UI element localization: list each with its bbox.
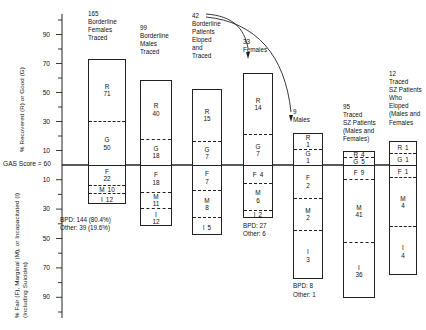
segment-value: 2 <box>306 214 310 221</box>
segment-eloped-males-r: R1 <box>294 134 322 150</box>
segment-eloped-females-g: G7 <box>244 135 272 166</box>
segment-traced-sz-patients-f: F9 <box>344 166 374 180</box>
segment-letter: I <box>307 248 309 255</box>
segment-value: 1 <box>405 168 409 175</box>
segment-value: 50 <box>103 144 110 151</box>
segment-value: 12 <box>152 218 159 225</box>
y-tick-lower-2: 50 <box>34 235 50 242</box>
segment-letter: F <box>154 171 158 178</box>
segment-traced-sz-eloped-i: I4 <box>390 227 416 276</box>
bar-eloped-females: R14G7F4M6I2 <box>243 73 273 219</box>
segment-value: 8 <box>205 204 209 211</box>
segment-borderline-males-traced-i: I12 <box>141 209 171 227</box>
y-tick-upper-0: 90 <box>34 31 50 38</box>
segment-letter: M <box>400 195 405 202</box>
segment-traced-sz-eloped-r: R1 <box>390 142 416 154</box>
segment-value: 6 <box>256 197 260 204</box>
column-header-borderline-males-traced: 99 Borderline Males Traced <box>140 24 198 56</box>
segment-letter: F <box>105 168 109 175</box>
segment-value: 4 <box>401 252 405 259</box>
segment-value: 4 <box>260 171 264 178</box>
segment-letter: F <box>253 171 257 178</box>
segment-value: 18 <box>152 179 159 186</box>
segment-eloped-females-f: F4 <box>244 166 272 184</box>
y-axis-ticks <box>56 20 62 312</box>
segment-letter: G <box>105 136 110 143</box>
y-tick-upper-2: 50 <box>34 89 50 96</box>
bar-eloped-males: R1G1F2M2I3 <box>293 133 323 279</box>
segment-value: 11 <box>153 200 160 207</box>
segment-letter: M <box>99 186 104 193</box>
y-tick-lower-3: 70 <box>34 264 50 271</box>
segment-borderline-males-traced-f: F18 <box>141 166 171 193</box>
segment-borderline-eloped-traced-i: I5 <box>193 218 221 235</box>
segment-eloped-males-f: F2 <box>294 166 322 199</box>
segment-borderline-eloped-traced-f: F7 <box>193 166 221 191</box>
segment-eloped-females-r: R14 <box>244 74 272 135</box>
segment-letter: M <box>153 193 158 200</box>
lower-axis-title: % Fair (F), Marginal (M), or Incapacitat… <box>13 193 29 318</box>
segment-borderline-eloped-traced-r: R15 <box>193 90 221 142</box>
segment-traced-sz-patients-g: G5 <box>344 158 374 166</box>
segment-letter: F <box>205 170 209 177</box>
segment-value: 2 <box>259 211 263 218</box>
segment-value: 71 <box>103 90 110 97</box>
bar-traced-sz-patients: R4G5F9M41I36 <box>343 151 375 298</box>
segment-letter: G <box>205 146 210 153</box>
segment-letter: R <box>306 134 311 141</box>
segment-value: 1 <box>405 144 409 151</box>
segment-value: 9 <box>361 169 365 176</box>
segment-value: 36 <box>355 271 362 278</box>
segment-value: 40 <box>152 110 159 117</box>
segment-value: 5 <box>361 158 365 165</box>
segment-letter: I <box>101 196 103 203</box>
segment-letter: M <box>255 189 260 196</box>
gas-score-label: GAS Score = 60 <box>3 160 51 167</box>
y-tick-upper-3: 30 <box>34 118 50 125</box>
y-tick-upper-1: 70 <box>34 60 50 67</box>
segment-letter: R <box>105 83 110 90</box>
upper-axis-title: % Recovered (R) or Good (G) <box>18 67 25 152</box>
segment-letter: G <box>256 143 261 150</box>
segment-value: 18 <box>152 152 159 159</box>
y-tick-lower-1: 30 <box>34 205 50 212</box>
segment-value: 15 <box>203 115 210 122</box>
segment-value: 7 <box>256 150 260 157</box>
column-header-traced-sz-eloped: 12 Traced SZ Patients Who Eloped (Males … <box>389 70 426 127</box>
segment-letter: F <box>306 174 310 181</box>
segment-letter: G <box>353 158 358 165</box>
segment-value: 5 <box>208 224 212 231</box>
segment-value: 7 <box>205 178 209 185</box>
segment-traced-sz-eloped-m: M4 <box>390 178 416 227</box>
segment-letter: I <box>358 264 360 271</box>
segment-letter: M <box>305 207 310 214</box>
segment-letter: R <box>205 108 210 115</box>
segment-traced-sz-patients-i: I36 <box>344 243 374 299</box>
segment-borderline-males-traced-g: G18 <box>141 140 171 166</box>
footnote-borderline-females-traced: BPD: 144 (80.4%) Other: 39 (19.6%) <box>60 216 138 233</box>
segment-letter: M <box>204 197 209 204</box>
segment-letter: I <box>203 224 205 231</box>
column-header-borderline-eloped-traced: 42 Borderline Patients Eloped and Traced <box>192 12 248 61</box>
bar-borderline-eloped-traced: R15G7F7M8I5 <box>192 89 222 235</box>
segment-value: 14 <box>254 104 261 111</box>
y-tick-lower-0: 10 <box>34 176 50 183</box>
segment-letter: G <box>306 150 311 157</box>
segment-eloped-males-g: G1 <box>294 150 322 166</box>
segment-value: 1 <box>306 141 310 148</box>
bar-borderline-females-traced: R71G50F22M10I12 <box>88 59 126 205</box>
segment-borderline-females-traced-m: M10 <box>89 186 125 195</box>
segment-letter: F <box>354 169 358 176</box>
segment-value: 4 <box>401 202 405 209</box>
segment-borderline-eloped-traced-m: M8 <box>193 191 221 219</box>
segment-traced-sz-eloped-g: G1 <box>390 154 416 166</box>
segment-letter: R <box>154 102 159 109</box>
segment-borderline-males-traced-r: R40 <box>141 81 171 140</box>
segment-value: 12 <box>106 196 113 203</box>
segment-letter: I <box>402 244 404 251</box>
segment-traced-sz-eloped-f: F1 <box>390 166 416 178</box>
segment-letter: G <box>154 145 159 152</box>
segment-borderline-females-traced-f: F22 <box>89 166 125 186</box>
segment-letter: I <box>254 211 256 218</box>
column-header-eloped-females: 33 Females <box>243 38 299 54</box>
